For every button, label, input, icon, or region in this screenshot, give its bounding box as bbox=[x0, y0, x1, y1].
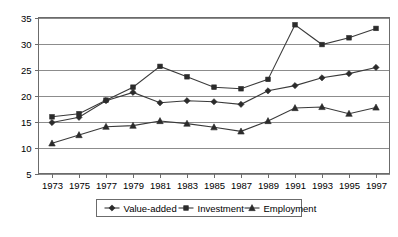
x-tick-label: 1997 bbox=[366, 180, 387, 191]
triangle-marker-icon bbox=[373, 104, 379, 110]
gridlines bbox=[39, 19, 390, 175]
chart-canvas: 5101520253035 19731975197719791981198319… bbox=[0, 0, 398, 237]
data-series bbox=[49, 22, 379, 146]
line-chart: 5101520253035 19731975197719791981198319… bbox=[0, 0, 398, 237]
square-marker-icon bbox=[77, 111, 82, 116]
y-tick-label: 25 bbox=[21, 65, 32, 76]
square-marker-icon bbox=[266, 77, 271, 82]
diamond-marker-icon bbox=[292, 83, 298, 89]
diamond-marker-icon bbox=[157, 100, 163, 106]
legend-label: Employment bbox=[264, 203, 317, 214]
legend-label: Investment bbox=[198, 203, 245, 214]
x-tick-label: 1979 bbox=[123, 180, 144, 191]
x-tick-label: 1993 bbox=[312, 180, 333, 191]
x-tick-label: 1975 bbox=[69, 180, 90, 191]
square-marker-icon bbox=[374, 26, 379, 31]
square-marker-icon bbox=[185, 74, 190, 79]
diamond-marker-icon bbox=[265, 88, 271, 94]
y-axis-tick-labels: 5101520253035 bbox=[21, 13, 32, 180]
diamond-marker-icon bbox=[211, 99, 217, 105]
x-tick-label: 1981 bbox=[150, 180, 171, 191]
diamond-marker-icon bbox=[373, 64, 379, 70]
x-tick-label: 1985 bbox=[204, 180, 225, 191]
x-tick-label: 1995 bbox=[339, 180, 360, 191]
series-line bbox=[52, 67, 376, 122]
x-tick-label: 1989 bbox=[258, 180, 279, 191]
diamond-marker-icon bbox=[49, 119, 55, 125]
series-employment bbox=[49, 104, 379, 146]
diamond-marker-icon bbox=[346, 71, 352, 77]
square-marker-icon bbox=[239, 86, 244, 91]
x-tick-label: 1991 bbox=[285, 180, 306, 191]
diamond-marker-icon bbox=[184, 98, 190, 104]
square-marker-icon bbox=[50, 115, 55, 120]
square-marker-icon bbox=[104, 98, 109, 103]
y-tick-label: 10 bbox=[21, 143, 32, 154]
x-tick-label: 1983 bbox=[177, 180, 198, 191]
square-marker-icon bbox=[293, 22, 298, 27]
legend-label: Value-added bbox=[124, 203, 177, 214]
x-tick-label: 1977 bbox=[96, 180, 117, 191]
chart-legend: Value-addedInvestmentEmployment bbox=[97, 200, 317, 217]
x-tick-label: 1987 bbox=[231, 180, 252, 191]
triangle-marker-icon bbox=[157, 118, 163, 124]
square-marker-icon bbox=[212, 85, 217, 90]
diamond-marker-icon bbox=[130, 89, 136, 95]
y-tick-label: 20 bbox=[21, 91, 32, 102]
square-marker-icon bbox=[158, 64, 163, 69]
triangle-marker-icon bbox=[265, 118, 271, 124]
y-tick-label: 30 bbox=[21, 39, 32, 50]
square-marker-icon bbox=[347, 35, 352, 40]
x-axis-tick-labels: 1973197519771979198119831985198719891991… bbox=[42, 180, 387, 191]
series-value-added bbox=[49, 64, 379, 125]
y-axis-ticks bbox=[35, 19, 39, 175]
x-tick-label: 1973 bbox=[42, 180, 63, 191]
y-tick-label: 35 bbox=[21, 13, 32, 24]
y-tick-label: 15 bbox=[21, 117, 32, 128]
square-marker-icon bbox=[131, 85, 136, 90]
square-marker-icon bbox=[184, 206, 189, 211]
y-tick-label: 5 bbox=[26, 169, 31, 180]
diamond-marker-icon bbox=[238, 101, 244, 107]
diamond-marker-icon bbox=[319, 75, 325, 81]
square-marker-icon bbox=[320, 42, 325, 47]
